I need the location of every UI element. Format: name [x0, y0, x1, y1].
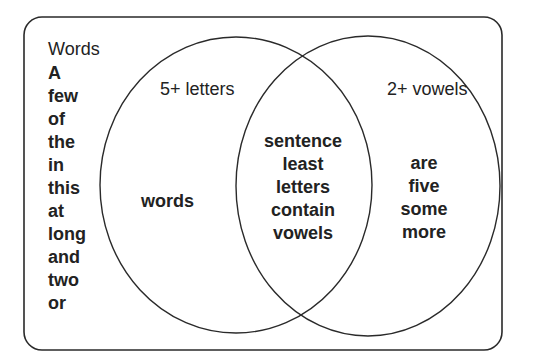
word: letters — [276, 176, 330, 199]
word: few — [48, 85, 86, 108]
intersection-word-list: sentence least letters contain vowels — [250, 130, 356, 245]
word: vowels — [273, 222, 333, 245]
word: sentence — [264, 130, 342, 153]
word: of — [48, 108, 86, 131]
word: are — [410, 152, 437, 175]
word: some — [400, 198, 447, 221]
word: this — [48, 177, 86, 200]
word: A — [48, 62, 86, 85]
word: or — [48, 292, 86, 315]
word: in — [48, 154, 86, 177]
word: at — [48, 200, 86, 223]
set-a-label: 5+ letters — [160, 79, 235, 100]
only-b-word-list: are five some more — [388, 152, 460, 244]
word: least — [282, 153, 323, 176]
word: the — [48, 131, 86, 154]
word: contain — [271, 199, 335, 222]
word: five — [408, 175, 439, 198]
word: and — [48, 246, 86, 269]
universe-label: Words — [48, 39, 100, 60]
word: more — [402, 221, 446, 244]
set-b-label: 2+ vowels — [387, 79, 468, 100]
word: two — [48, 269, 86, 292]
outside-word-list: A few of the in this at long and two or — [48, 62, 86, 315]
word: long — [48, 223, 86, 246]
only-a-word-list: words — [141, 190, 194, 213]
word: words — [141, 190, 194, 213]
